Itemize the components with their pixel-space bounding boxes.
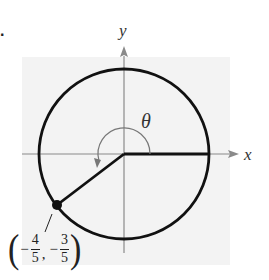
y-axis-arrow-icon <box>120 46 128 57</box>
x-fraction: 4 5 <box>31 233 40 265</box>
point-coordinates: ( − 4 5 , − 3 5 ) <box>8 232 81 266</box>
x-axis-label: x <box>243 145 252 164</box>
y-sign: − <box>50 241 58 258</box>
point-marker <box>52 200 62 210</box>
x-sign: − <box>20 241 28 258</box>
y-axis-label: y <box>117 21 127 40</box>
angle-label: θ <box>141 110 151 132</box>
y-fraction: 3 5 <box>60 233 69 265</box>
